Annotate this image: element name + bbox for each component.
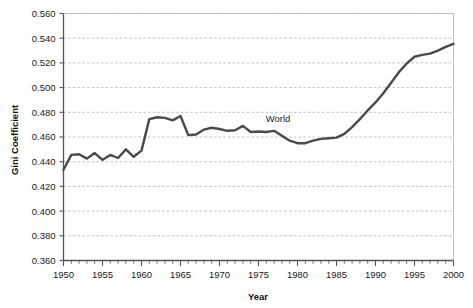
y-tick-label: 0.400: [32, 206, 56, 217]
y-tick-label: 0.420: [32, 181, 56, 192]
x-tick-label: 1970: [209, 269, 230, 280]
x-tick-label: 1980: [287, 269, 308, 280]
x-tick-label: 1950: [53, 269, 74, 280]
x-tick-label: 1975: [248, 269, 269, 280]
x-tick-label: 1995: [404, 269, 425, 280]
x-tick-label: 1985: [326, 269, 347, 280]
chart-canvas: 0.3600.3800.4000.4200.4400.4600.4800.500…: [0, 0, 473, 308]
x-tick-label: 2000: [443, 269, 464, 280]
y-tick-label: 0.500: [32, 82, 56, 93]
y-axis-title: Gini Coefficient: [9, 104, 20, 175]
gini-coefficient-line-chart: 0.3600.3800.4000.4200.4400.4600.4800.500…: [0, 0, 473, 308]
x-tick-label: 1965: [170, 269, 191, 280]
y-tick-label: 0.380: [32, 230, 56, 241]
y-tick-label: 0.560: [32, 8, 56, 19]
y-tick-label: 0.460: [32, 131, 56, 142]
y-tick-label: 0.540: [32, 33, 56, 44]
y-tick-label: 0.360: [32, 255, 56, 266]
series-label-world: World: [266, 113, 291, 124]
y-tick-label: 0.440: [32, 156, 56, 167]
x-axis-title: Year: [248, 291, 268, 302]
x-tick-label: 1960: [131, 269, 152, 280]
x-tick-label: 1990: [365, 269, 386, 280]
x-tick-label: 1955: [92, 269, 113, 280]
y-tick-label: 0.520: [32, 57, 56, 68]
series-annotations: World: [266, 113, 291, 124]
y-tick-label: 0.480: [32, 107, 56, 118]
